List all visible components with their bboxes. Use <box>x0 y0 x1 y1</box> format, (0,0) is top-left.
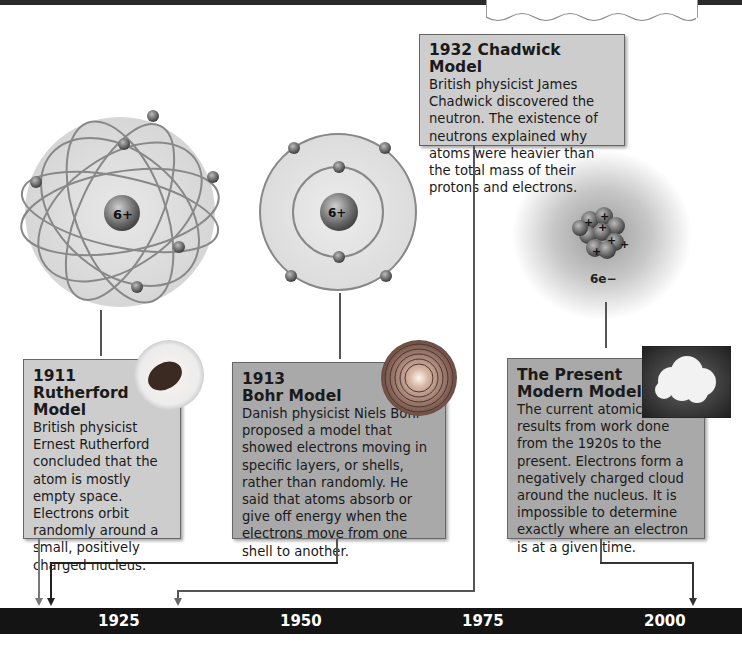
onion-slice-photo <box>379 338 459 418</box>
svg-text:+: + <box>584 216 593 229</box>
arrow-chadwick <box>174 598 182 606</box>
svg-text:+: + <box>620 238 629 251</box>
chadwick-card: 1932 Chadwick Model British physicist Ja… <box>419 34 625 146</box>
cloud-label: 6e− <box>590 272 617 286</box>
connector-rutherford-down <box>38 539 40 599</box>
timeline-label-1925: 1925 <box>98 611 140 631</box>
connector-bohr-down <box>336 539 338 563</box>
timeline-label-1975: 1975 <box>462 611 504 631</box>
timeline-label-2000: 2000 <box>644 611 686 631</box>
peach-pit-photo <box>132 338 206 412</box>
connector-chadwick-horizontal <box>177 590 475 592</box>
connector-modern-down <box>600 539 602 563</box>
arrow-rutherford <box>35 598 43 606</box>
arrow-modern <box>689 598 697 606</box>
nucleus-label: 6+ <box>328 206 346 220</box>
rutherford-description: British physicist Ernest Rutherford conc… <box>33 419 171 574</box>
connector-rutherford <box>100 310 102 356</box>
connector-bohr-horizontal <box>50 562 338 564</box>
svg-text:+: + <box>607 234 616 247</box>
connector-bohr <box>339 293 341 359</box>
modern-description: The current atomic model results from wo… <box>517 401 695 556</box>
arrow-bohr <box>47 598 55 606</box>
connector-modern-right <box>692 562 694 599</box>
connector-chadwick <box>473 146 475 591</box>
timeline-label-1950: 1950 <box>280 611 322 631</box>
nucleus-label: 6+ <box>113 207 133 222</box>
svg-text:+: + <box>592 245 601 258</box>
svg-text:+: + <box>598 221 607 234</box>
chadwick-description: British physicist James Chadwick discove… <box>429 76 615 196</box>
chadwick-title: 1932 Chadwick Model <box>429 42 615 76</box>
cloud-photo <box>642 346 731 418</box>
decorative-tab <box>486 0 698 18</box>
rutherford-atom-diagram: 6+ <box>10 95 230 315</box>
connector-modern-horizontal <box>600 562 693 564</box>
bohr-description: Danish physicist Niels Bohr proposed a m… <box>242 405 436 560</box>
connector-modern <box>605 302 607 348</box>
connector-bohr-left <box>50 562 52 599</box>
bohr-atom-diagram: 6+ <box>258 130 418 300</box>
